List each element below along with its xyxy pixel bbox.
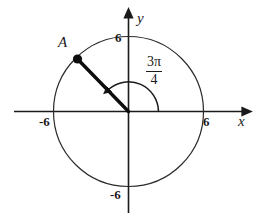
x-positive-tick-label: 6 <box>203 115 210 128</box>
angle-numerator: 3π <box>146 55 162 70</box>
point-a-marker <box>73 54 82 63</box>
y-axis-label: y <box>137 11 144 26</box>
x-negative-tick-label: -6 <box>39 115 50 128</box>
terminal-ray <box>78 60 129 112</box>
y-positive-tick-label: 6 <box>115 31 122 44</box>
angle-measure-label: 3π 4 <box>146 55 162 88</box>
angle-diagram-figure: A y x 6 -6 -6 6 3π 4 <box>0 0 258 223</box>
point-a-label: A <box>58 35 67 50</box>
diagram-canvas <box>0 0 258 223</box>
angle-denominator: 4 <box>146 73 162 88</box>
y-negative-tick-label: -6 <box>110 188 121 201</box>
x-axis-label: x <box>238 114 245 129</box>
